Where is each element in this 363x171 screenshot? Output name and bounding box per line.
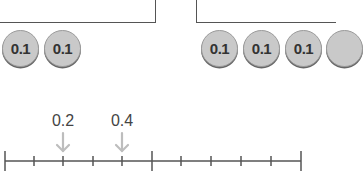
marker-arrow-icon (116, 133, 128, 151)
marker-arrow-icon (57, 133, 69, 151)
value-chip-partial (326, 30, 363, 67)
